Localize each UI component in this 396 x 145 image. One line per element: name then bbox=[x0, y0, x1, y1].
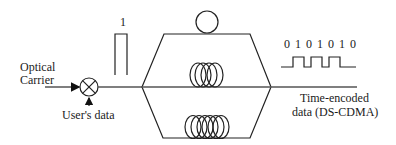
time-encoded-label-line2: data (DS-CDMA) bbox=[292, 105, 378, 119]
middle-fiber-coil-icon bbox=[190, 63, 223, 87]
users-data-label: User's data bbox=[62, 108, 115, 122]
optical-carrier-label-line1: Optical bbox=[20, 60, 56, 74]
optical-carrier-label-line2: Carrier bbox=[20, 73, 54, 87]
modulator-icon bbox=[80, 78, 98, 96]
pulse-label: 1 bbox=[120, 15, 126, 29]
ds-cdma-diagram: Optical Carrier User's data 1 bbox=[0, 0, 396, 145]
code-sequence-label: 0 1 0 1 0 1 0 bbox=[284, 37, 357, 51]
output-waveform-icon bbox=[281, 57, 356, 67]
top-delay-circle-icon bbox=[196, 11, 218, 33]
time-encoded-label-line1: Time-encoded bbox=[300, 91, 369, 105]
input-pulse-icon bbox=[115, 34, 127, 75]
bottom-fiber-coil-icon bbox=[185, 116, 229, 139]
